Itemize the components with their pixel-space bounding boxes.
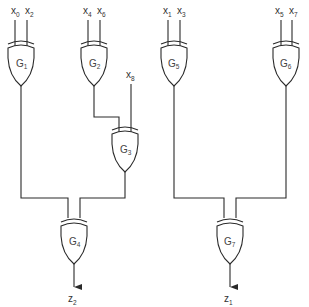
svg-text:x7: x7	[289, 5, 298, 18]
input-label-x2: x2	[25, 5, 34, 18]
svg-text:x2: x2	[25, 5, 34, 18]
input-label-x7: x7	[289, 5, 298, 18]
xor-gate-g1: G1	[8, 41, 34, 86]
svg-text:x8: x8	[126, 69, 135, 82]
xor-gate-g4: G4	[61, 219, 87, 264]
input-label-x8: x8	[126, 69, 135, 82]
xor-gate-g3: G3	[112, 127, 138, 172]
output-label-z1: z1	[224, 293, 233, 306]
svg-text:x6: x6	[97, 5, 106, 18]
svg-text:x0: x0	[11, 5, 20, 18]
xor-gate-g7: G7	[217, 219, 243, 264]
xor-gate-g5: G5	[161, 41, 187, 86]
svg-text:x4: x4	[83, 5, 92, 18]
svg-text:x3: x3	[177, 5, 186, 18]
input-label-x3: x3	[177, 5, 186, 18]
input-label-x4: x4	[83, 5, 92, 18]
xor-circuit-diagram: x0 x2 x4 x6 x8 x1 x3 x5 x7 G1 G2 G3	[0, 0, 309, 307]
svg-text:z1: z1	[224, 293, 233, 306]
xor-gate-g6: G6	[273, 41, 299, 86]
xor-gate-g2: G2	[81, 41, 107, 86]
output-label-z2: z2	[68, 293, 77, 306]
input-wires	[15, 20, 292, 133]
input-label-x6: x6	[97, 5, 106, 18]
svg-text:x5: x5	[275, 5, 284, 18]
svg-text:x1: x1	[163, 5, 172, 18]
svg-text:z2: z2	[68, 293, 77, 306]
input-label-x0: x0	[11, 5, 20, 18]
input-label-x5: x5	[275, 5, 284, 18]
input-label-x1: x1	[163, 5, 172, 18]
